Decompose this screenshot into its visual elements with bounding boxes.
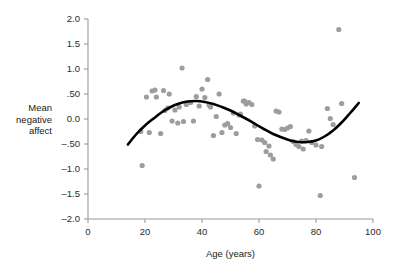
x-axis-ticks [88, 219, 373, 223]
data-point [161, 88, 166, 93]
y-tick-label: –1.0 [62, 163, 81, 174]
data-point [256, 183, 261, 188]
data-point [208, 104, 213, 109]
y-axis-title-line: Mean [28, 102, 52, 113]
data-point [318, 193, 323, 198]
data-point [205, 77, 210, 82]
x-axis-title: Age (years) [206, 248, 255, 259]
y-tick-label: –.50 [62, 138, 81, 149]
data-point [199, 86, 204, 91]
x-axis-title-text: Age (years) [206, 248, 255, 259]
y-axis-ticks [84, 19, 88, 219]
data-point [211, 133, 216, 138]
y-axis-title: Meannegativeaffect [16, 102, 52, 136]
data-point [181, 119, 186, 124]
y-tick-label: –2.0 [62, 213, 81, 224]
data-point [249, 102, 254, 107]
y-tick-label: 0.0 [67, 113, 80, 124]
y-tick-label: 2.0 [67, 13, 80, 24]
x-tick-label: 40 [197, 226, 208, 237]
trend-curve-path [128, 101, 359, 145]
data-point [352, 175, 357, 180]
data-point [169, 118, 174, 123]
y-tick-label: 1.5 [67, 38, 80, 49]
y-axis-tick-labels: 2.01.51.0.500.0–.50–1.0–1.5–2.0 [62, 13, 81, 224]
data-point [266, 143, 271, 148]
x-tick-label: 20 [140, 226, 151, 237]
data-point [179, 65, 184, 70]
scatter-points [138, 27, 357, 198]
data-point [140, 163, 145, 168]
data-point [194, 94, 199, 99]
data-point [147, 130, 152, 135]
chart-canvas: 2.01.51.0.500.0–.50–1.0–1.5–2.0 02040608… [0, 0, 401, 270]
data-point [276, 109, 281, 114]
data-point [214, 114, 219, 119]
x-tick-label: 60 [254, 226, 265, 237]
data-point [144, 94, 149, 99]
data-point [262, 140, 267, 145]
y-tick-label: .50 [67, 88, 80, 99]
data-point [228, 125, 233, 130]
data-point [234, 131, 239, 136]
data-point [197, 103, 202, 108]
data-point [306, 128, 311, 133]
data-point [301, 146, 306, 151]
data-point [331, 122, 336, 127]
data-point [152, 87, 157, 92]
x-tick-label: 100 [365, 226, 381, 237]
data-point [175, 120, 180, 125]
data-point [219, 130, 224, 135]
data-point [288, 124, 293, 129]
y-axis-title-line: affect [29, 125, 52, 136]
data-point [325, 106, 330, 111]
data-point [264, 149, 269, 154]
trend-curve [128, 101, 359, 145]
data-point [328, 116, 333, 121]
data-point [319, 144, 324, 149]
data-point [271, 156, 276, 161]
y-tick-label: –1.5 [62, 188, 81, 199]
data-point [313, 142, 318, 147]
x-axis-tick-labels: 020406080100 [85, 226, 381, 237]
data-point [336, 27, 341, 32]
data-point [172, 107, 177, 112]
data-point [202, 95, 207, 100]
data-point [339, 101, 344, 106]
data-point [167, 91, 172, 96]
data-point [154, 94, 159, 99]
y-tick-label: 1.0 [67, 63, 80, 74]
x-tick-label: 0 [85, 226, 90, 237]
x-tick-label: 80 [311, 226, 322, 237]
data-point [158, 131, 163, 136]
y-axis-title-line: negative [16, 114, 52, 125]
data-point [217, 91, 222, 96]
data-point [191, 118, 196, 123]
scatter-plot-figure: 2.01.51.0.500.0–.50–1.0–1.5–2.0 02040608… [0, 0, 401, 270]
